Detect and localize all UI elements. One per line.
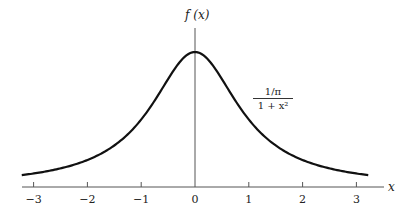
plot-area [0,0,409,215]
x-tick-label: −1 [133,193,149,206]
fraction-bar [253,98,293,99]
x-tick-label: −2 [79,193,95,206]
x-axis-label: x [388,180,395,194]
curve-label-numerator: 1/π [253,86,293,97]
x-tick-label: 3 [353,193,360,206]
x-tick-label: 2 [299,193,306,206]
chart: f (x) x 1/π 1 + x² −3−2−10123 [0,0,409,215]
curve-label-denominator: 1 + x² [253,100,293,111]
y-axis-label: f (x) [185,8,209,22]
curve-label: 1/π 1 + x² [253,86,293,111]
x-tick-label: 1 [245,193,252,206]
x-tick-label: −3 [25,193,41,206]
x-tick-label: 0 [192,193,199,206]
